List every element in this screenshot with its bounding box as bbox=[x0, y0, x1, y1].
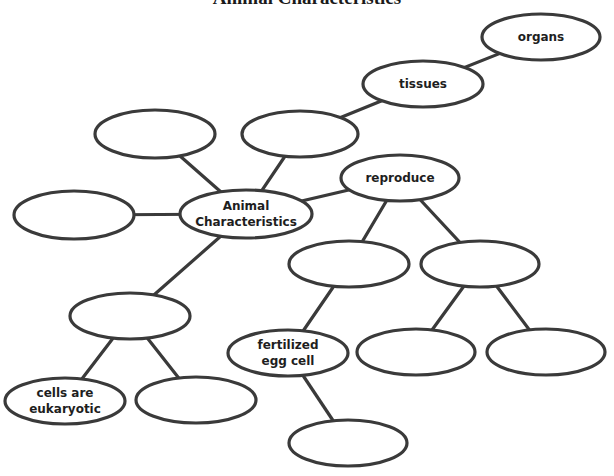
concept-node-eukaryotic bbox=[5, 378, 125, 424]
concept-node-bl2 bbox=[136, 377, 256, 423]
concept-node-r_left bbox=[289, 241, 409, 287]
concept-map bbox=[0, 0, 614, 476]
concept-node-rr_left bbox=[357, 329, 475, 375]
concept-node-tm bbox=[242, 111, 358, 157]
concept-node-fertilized bbox=[228, 330, 348, 376]
concept-node-center bbox=[180, 190, 312, 238]
concept-node-tl bbox=[95, 110, 215, 158]
concept-node-bottom bbox=[289, 420, 407, 466]
concept-node-tissues bbox=[363, 61, 483, 107]
concept-node-r_right bbox=[421, 241, 539, 287]
concept-node-rr_right bbox=[487, 329, 605, 375]
concept-node-organs bbox=[482, 14, 600, 60]
concept-node-left bbox=[14, 191, 134, 239]
concept-nodes bbox=[5, 14, 605, 466]
concept-node-mid_left bbox=[70, 293, 190, 339]
concept-node-reproduce bbox=[341, 155, 459, 201]
